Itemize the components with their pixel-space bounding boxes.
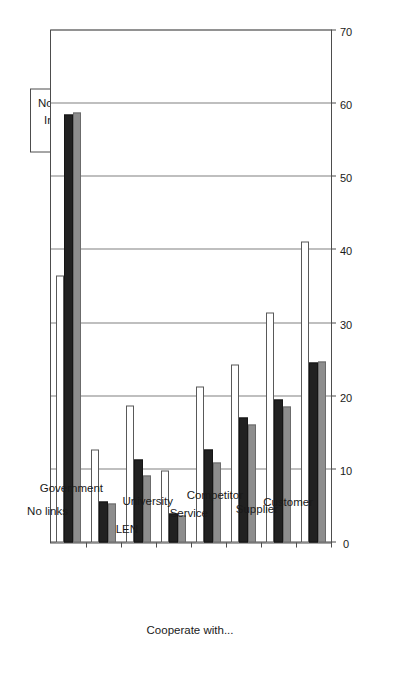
value-tick-60 [331, 102, 336, 103]
category-tick [226, 542, 227, 547]
gridline-70 [51, 29, 331, 30]
value-tick-label-10: 10 [340, 464, 352, 476]
chart-page: Novel Incremental Non-innovator 01020304… [0, 0, 402, 673]
bar-novel-len [126, 405, 135, 542]
gridline-20 [51, 395, 331, 396]
value-tick-label-40: 40 [340, 244, 352, 256]
value-tick-20 [331, 395, 336, 396]
gridline-50 [51, 175, 331, 176]
value-tick-label-20: 20 [340, 391, 352, 403]
bar-novel-competitor [231, 364, 240, 542]
bar-incremental-competitor [239, 417, 248, 542]
value-tick-label-60: 60 [340, 98, 352, 110]
category-tick [86, 542, 87, 547]
category-label-customer: Customer [263, 495, 313, 507]
bar-novel-no-links [56, 275, 65, 542]
gridline-30 [51, 322, 331, 323]
value-tick-label-70: 70 [340, 25, 352, 37]
category-label-university: University [122, 495, 172, 507]
bar-non-innovator-no-links [73, 112, 82, 542]
category-label-competitor: Competitor [186, 489, 242, 501]
value-tick-label-0: 0 [343, 537, 349, 549]
gridline-60 [51, 102, 331, 103]
category-tick [261, 542, 262, 547]
category-tick [191, 542, 192, 547]
value-tick-50 [331, 175, 336, 176]
category-tick [331, 542, 332, 547]
bar-non-innovator-service [213, 462, 222, 542]
value-tick-40 [331, 248, 336, 249]
bar-incremental-supplier [274, 399, 283, 542]
bar-non-innovator-competitor [248, 424, 257, 542]
value-tick-30 [331, 322, 336, 323]
value-tick-label-30: 30 [340, 318, 352, 330]
bar-incremental-customer [309, 362, 318, 542]
bar-incremental-government [99, 501, 108, 542]
category-label-service: Service [169, 507, 207, 519]
plot-area [50, 29, 332, 543]
category-label-no-links: No links [27, 504, 68, 516]
bar-non-innovator-customer [318, 361, 327, 542]
value-tick-label-50: 50 [340, 171, 352, 183]
bar-non-innovator-len [143, 475, 152, 542]
category-tick [156, 542, 157, 547]
chart-stage: Novel Incremental Non-innovator 01020304… [0, 0, 402, 673]
bar-novel-government [91, 449, 100, 542]
category-tick [296, 542, 297, 547]
value-tick-10 [331, 468, 336, 469]
bar-non-innovator-supplier [283, 406, 292, 542]
category-axis-title: Cooperate with... [147, 623, 234, 635]
category-tick [121, 542, 122, 547]
category-label-len: LEN [115, 523, 137, 535]
value-tick-70 [331, 29, 336, 30]
bar-incremental-no-links [64, 114, 73, 542]
gridline-40 [51, 248, 331, 249]
category-label-government: Government [39, 482, 102, 494]
